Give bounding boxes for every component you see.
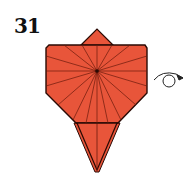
main-body (46, 45, 147, 123)
turn-over-arrow-icon (154, 73, 183, 87)
center-point (95, 69, 99, 73)
top-flap (81, 29, 113, 45)
origami-diagram (0, 0, 194, 182)
